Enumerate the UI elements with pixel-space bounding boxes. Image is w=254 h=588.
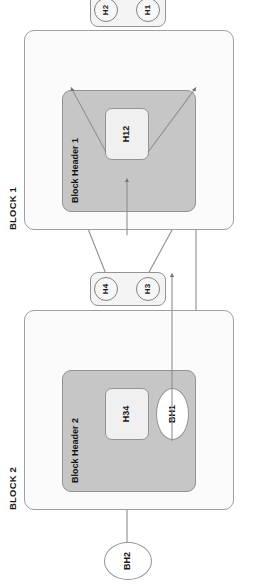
merkle-root-h34[interactable]: H34 — [105, 388, 149, 440]
block-label-block2: BLOCK 2 — [6, 420, 20, 510]
prev-block-hash-bh1[interactable]: BH1 — [156, 388, 189, 440]
block-hash-bh2[interactable]: BH2 — [104, 542, 152, 580]
block-header-1-title: Block Header 1 — [71, 138, 80, 203]
hash-node-h3[interactable]: H3 — [136, 277, 160, 301]
diagram-canvas: BH2 BLOCK 2 Block Header 2 H34 BH1 H4 H3… — [0, 0, 254, 588]
merkle-root-h12[interactable]: H12 — [105, 108, 149, 160]
block-header-2-title: Block Header 2 — [71, 418, 80, 483]
hash-node-h4[interactable]: H4 — [94, 277, 118, 301]
diagram-rotor: BH2 BLOCK 2 Block Header 2 H34 BH1 H4 H3… — [0, 0, 254, 588]
block-label-block1: BLOCK 1 — [6, 140, 20, 230]
